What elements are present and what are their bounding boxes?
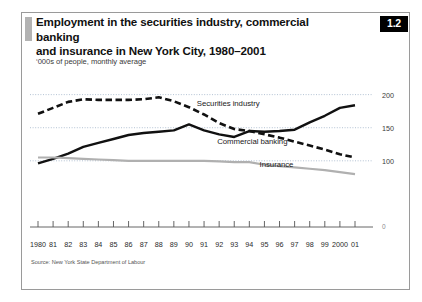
x-axis-labels: 1980818283848586878889909192939495969798… xyxy=(0,240,422,254)
series-line-insurance xyxy=(38,158,355,175)
x-axis-tick-label: 91 xyxy=(200,240,208,249)
chart-title-line-2: and insurance in New York City, 1980–200… xyxy=(36,44,266,57)
x-axis-tick-label: 94 xyxy=(245,240,253,249)
source-note: Source: New York State Department of Lab… xyxy=(31,259,145,265)
x-axis-tick-label: 1980 xyxy=(30,240,46,249)
x-axis-tick-label: 98 xyxy=(306,240,314,249)
series-label-securities-industry: Securities industry xyxy=(197,99,260,108)
x-axis-tick-label: 97 xyxy=(291,240,299,249)
x-axis-tick-label: 87 xyxy=(140,240,148,249)
title-accent-bar xyxy=(25,17,32,41)
series-label-commercial-banking: Commercial banking xyxy=(217,137,287,146)
x-axis-tick-label: 01 xyxy=(351,240,359,249)
y-axis-tick-label: 100 xyxy=(382,157,394,166)
x-axis-tick-label: 83 xyxy=(79,240,87,249)
x-axis-tick-label: 93 xyxy=(230,240,238,249)
x-axis-tick-label: 85 xyxy=(109,240,117,249)
x-axis-tick-label: 89 xyxy=(170,240,178,249)
x-axis-tick-label: 81 xyxy=(49,240,57,249)
x-axis-tick-label: 84 xyxy=(94,240,102,249)
x-axis-tick-label: 82 xyxy=(64,240,72,249)
chart-subtitle: ‘000s of people, monthly average xyxy=(36,57,146,66)
figure-root: Employment in the securities industry, c… xyxy=(0,0,422,302)
figure-number-badge: 1.2 xyxy=(380,16,408,32)
page-title: Employment in the securities industry, c… xyxy=(36,15,346,59)
series-line-securities-industry xyxy=(38,105,355,163)
x-axis xyxy=(30,221,373,227)
x-axis-tick-label: 95 xyxy=(260,240,268,249)
x-axis-tick-label: 2000 xyxy=(332,240,348,249)
x-axis-tick-label: 99 xyxy=(321,240,329,249)
series-label-insurance: Insurance xyxy=(260,160,294,169)
x-axis-tick-label: 86 xyxy=(125,240,133,249)
x-axis-tick-label: 96 xyxy=(276,240,284,249)
title-block: Employment in the securities industry, c… xyxy=(36,15,346,59)
chart-title-line-1: Employment in the securities industry, c… xyxy=(36,15,309,43)
series-lines xyxy=(38,97,355,174)
y-axis-tick-label: 150 xyxy=(382,124,394,133)
x-axis-tick-label: 88 xyxy=(155,240,163,249)
y-axis-tick-label: 0 xyxy=(382,223,386,230)
y-axis-tick-label: 200 xyxy=(382,91,394,100)
x-axis-tick-label: 92 xyxy=(215,240,223,249)
x-axis-tick-label: 90 xyxy=(185,240,193,249)
